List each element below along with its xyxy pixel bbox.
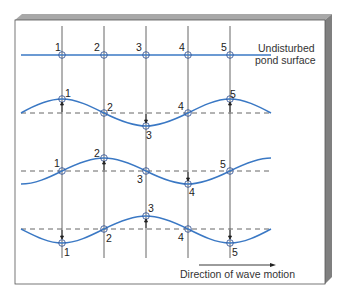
point-label: 2 [107, 101, 113, 113]
point-label: 2 [94, 41, 100, 53]
point-label: 1 [65, 87, 71, 99]
point-label: 3 [148, 202, 154, 214]
point-label: 4 [178, 231, 184, 243]
point-label: 5 [221, 41, 227, 53]
point-label: 5 [232, 246, 238, 258]
point-label: 3 [137, 173, 143, 185]
point-label: 3 [136, 41, 142, 53]
point-label: 5 [220, 158, 226, 170]
point-label: 5 [230, 88, 236, 100]
point-label: 3 [146, 129, 152, 141]
point-label: 2 [94, 147, 100, 159]
frame-right-bevel [325, 14, 332, 284]
wave-diagram: 1 2 3 4 5 Undisturbed pond surface 1 2 3… [0, 0, 343, 293]
point-label: 4 [178, 100, 184, 112]
point-label: 4 [179, 41, 185, 53]
point-label: 4 [189, 186, 195, 198]
undisturbed-label-line2: pond surface [255, 54, 316, 66]
point-label: 1 [54, 157, 60, 169]
frame-top-bevel [15, 14, 332, 20]
undisturbed-label-line1: Undisturbed [258, 42, 315, 54]
point-label: 2 [106, 232, 112, 244]
point-label: 1 [55, 41, 61, 53]
direction-label: Direction of wave motion [180, 268, 295, 280]
point-label: 1 [64, 246, 70, 258]
